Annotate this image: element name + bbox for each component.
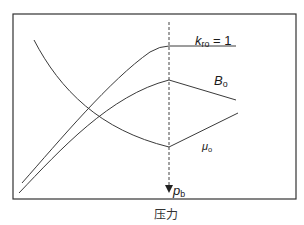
kro-curve — [22, 46, 236, 183]
bo-label: Bo — [214, 74, 228, 89]
muo-subscript: o — [208, 145, 212, 154]
kro-label: kro = 1 — [195, 34, 231, 49]
bubble-point-arrow-icon — [165, 185, 173, 193]
bo-symbol: B — [214, 73, 223, 88]
kro-suffix: = 1 — [209, 33, 231, 48]
bo-subscript: o — [223, 79, 228, 89]
pb-label: pb — [173, 184, 185, 199]
muo-label: μo — [202, 141, 212, 153]
x-axis-caption: 压力 — [154, 205, 178, 222]
muo-curve — [34, 40, 238, 147]
diagram-canvas — [0, 0, 304, 225]
bo-curve — [19, 80, 236, 193]
plot-frame — [13, 14, 296, 199]
pb-subscript: b — [180, 189, 185, 199]
